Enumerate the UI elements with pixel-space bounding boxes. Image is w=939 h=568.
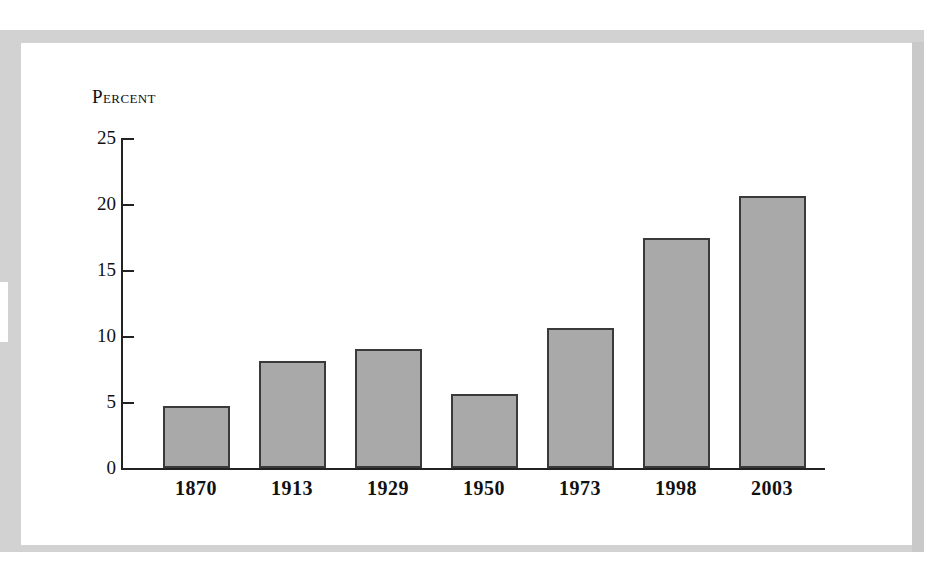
bar[interactable] [739,196,806,468]
y-tick-mark [123,468,134,470]
bar[interactable] [355,349,422,468]
y-tick-mark [123,402,134,404]
figure: Percent 25 20 15 10 5 0 1870 1913 1929 1… [0,0,939,568]
x-tick-label: 1870 [150,477,242,500]
x-tick-label: 2003 [726,477,818,500]
x-tick-label: 1998 [630,477,722,500]
y-tick-mark [123,138,134,140]
y-axis-title: Percent [92,86,156,108]
y-tick-label: 5 [76,391,116,413]
x-axis-line [121,468,825,470]
x-tick-label: 1913 [246,477,338,500]
bar[interactable] [643,238,710,468]
bar[interactable] [451,394,518,468]
bar[interactable] [163,406,230,468]
y-tick-label: 10 [76,325,116,347]
y-tick-mark [123,336,134,338]
y-tick-label: 25 [76,127,116,149]
bar[interactable] [547,328,614,468]
y-tick-mark [123,204,134,206]
x-tick-label: 1973 [534,477,626,500]
bar-chart: Percent 25 20 15 10 5 0 1870 1913 1929 1… [0,0,939,568]
y-tick-mark [123,270,134,272]
x-tick-label: 1929 [342,477,434,500]
bar[interactable] [259,361,326,468]
y-tick-label: 15 [76,259,116,281]
x-tick-label: 1950 [438,477,530,500]
y-tick-label: 0 [76,457,116,479]
y-axis-line [121,138,123,469]
y-tick-label: 20 [76,193,116,215]
